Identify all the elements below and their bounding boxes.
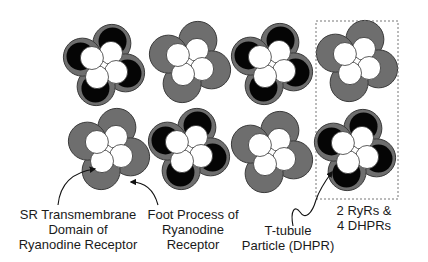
transmembrane-domain — [165, 131, 188, 154]
label-sr-transmembrane: SR Transmembrane Domain of Ryanodine Rec… — [14, 207, 142, 252]
rdr-unit — [148, 108, 229, 189]
transmembrane-domain — [333, 43, 356, 66]
label-sr-transmembrane-line3: Ryanodine Receptor — [14, 237, 142, 252]
rdr-unit — [149, 21, 230, 102]
transmembrane-domain — [248, 134, 271, 157]
label-sr-transmembrane-line2: Domain of — [14, 222, 142, 237]
label-foot-process-line2: Ryanodine — [143, 222, 243, 237]
rdr-unit — [231, 111, 312, 192]
transmembrane-domain — [166, 44, 189, 67]
label-sr-transmembrane-line1: SR Transmembrane — [14, 207, 142, 222]
transmembrane-domain — [80, 47, 103, 70]
label-t-tubule-line1: T-tubule — [238, 223, 338, 238]
rdr-unit — [316, 20, 397, 101]
label-box-caption-line2: 4 DHPRs — [325, 218, 403, 233]
rdr-unit — [314, 109, 395, 190]
label-foot-process-line3: Receptor — [143, 237, 243, 252]
receptor-units — [63, 20, 397, 192]
transmembrane-domain — [248, 46, 271, 69]
transmembrane-domain — [85, 131, 108, 154]
rdr-unit — [231, 23, 312, 104]
label-foot-process: Foot Process of Ryanodine Receptor — [143, 207, 243, 252]
transmembrane-domain — [331, 132, 354, 155]
label-foot-process-line1: Foot Process of — [143, 207, 243, 222]
label-t-tubule: T-tubule Particle (DHPR) — [238, 223, 338, 253]
label-box-caption: 2 RyRs & 4 DHPRs — [325, 203, 403, 233]
rdr-unit — [68, 108, 149, 189]
rdr-unit — [63, 24, 144, 105]
label-t-tubule-line2: Particle (DHPR) — [238, 238, 338, 253]
label-box-caption-line1: 2 RyRs & — [325, 203, 403, 218]
arrow-foot-process — [131, 182, 158, 205]
